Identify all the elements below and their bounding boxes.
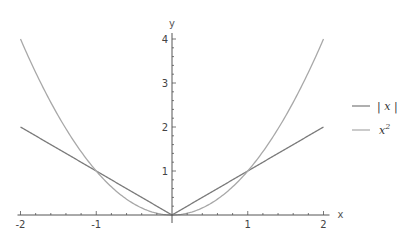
x-tick-label: 2	[320, 219, 326, 230]
x-axis-label: x	[338, 209, 344, 220]
x-tick-label: -2	[16, 219, 26, 230]
x-tick-label: -1	[91, 219, 101, 230]
legend: | x | x2	[352, 100, 398, 137]
chart-canvas: -2-1121234xy | x | x2	[0, 0, 411, 240]
x-tick-label: 1	[245, 219, 251, 230]
y-tick-label: 2	[162, 122, 168, 133]
y-tick-label: 1	[162, 166, 168, 177]
y-tick-label: 4	[162, 34, 168, 45]
legend-label-square: x2	[379, 122, 390, 137]
legend-label-square-sup: 2	[384, 122, 390, 131]
y-axis-label: y	[169, 18, 175, 29]
legend-label-abs: | x |	[377, 100, 398, 114]
axes: -2-1121234xy	[16, 18, 344, 230]
y-tick-label: 3	[162, 78, 168, 89]
